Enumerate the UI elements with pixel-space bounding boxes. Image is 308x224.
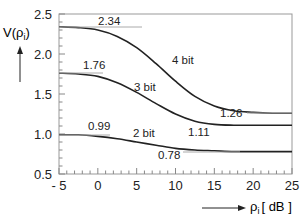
series-curves — [59, 27, 292, 152]
annotation-0-78: 0.78 — [158, 149, 180, 161]
x-tick-label: 25 — [285, 178, 299, 193]
x-tick-label: - 5 — [51, 178, 66, 193]
x-tick-label: 5 — [133, 178, 140, 193]
label-3-bit: 3 bit — [134, 81, 157, 93]
x-tick-label: 10 — [168, 178, 182, 193]
annotation-1-76: 1.76 — [83, 59, 105, 71]
y-tick-label: 0.5 — [34, 167, 52, 182]
y-axis-label: V(ρi) — [3, 25, 30, 42]
label-2-bit: 2 bit — [133, 127, 156, 139]
chart: 0.51.01.52.02.5 - 50510152025 2.34 1.76 … — [0, 0, 308, 224]
x-axis-arrow-icon — [202, 205, 246, 211]
y-tick-label: 2.5 — [34, 7, 52, 22]
annotation-1-26: 1.26 — [220, 107, 242, 119]
x-tick-labels: - 50510152025 — [51, 178, 299, 193]
x-tick-label: 15 — [207, 178, 221, 193]
annotation-0-99: 0.99 — [88, 120, 110, 132]
asymptote-lines — [59, 27, 292, 152]
annotation-2-34: 2.34 — [98, 15, 121, 27]
y-axis-arrow-icon — [17, 46, 23, 82]
y-tick-label: 1.0 — [34, 127, 52, 142]
annotation-1-11: 1.11 — [188, 126, 210, 138]
x-axis-label: ρi[ dB ] — [250, 199, 292, 216]
y-tick-label: 2.0 — [34, 47, 52, 62]
x-tick-label: 0 — [94, 178, 101, 193]
y-tick-labels: 0.51.01.52.02.5 — [34, 7, 52, 182]
y-tick-label: 1.5 — [34, 87, 52, 102]
x-tick-label: 20 — [246, 178, 260, 193]
label-4-bit: 4 bit — [172, 54, 195, 66]
